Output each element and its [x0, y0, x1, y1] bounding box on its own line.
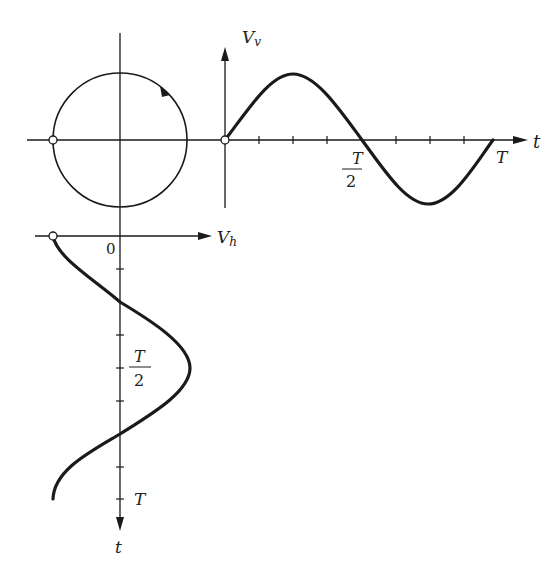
clockwise-arrow-icon	[160, 86, 170, 97]
vh-start-marker	[49, 232, 57, 240]
vv-axis-arrow-icon	[221, 47, 229, 61]
vv-half-period-numerator: T	[352, 149, 364, 168]
vh-origin-label: 0	[106, 240, 116, 258]
vertical-component-plot: Vv t T 2 T	[221, 27, 541, 208]
vh-axis-label: Vh	[217, 227, 237, 249]
t-axis-arrow-icon	[513, 136, 528, 144]
vh-axis-arrow-icon	[198, 232, 212, 240]
vv-period-label: T	[496, 147, 509, 167]
vv-sine-curve	[225, 74, 493, 204]
vv-half-period-denominator: 2	[346, 172, 356, 191]
vv-t-axis-label: t	[533, 131, 541, 152]
reference-circle-group	[27, 33, 515, 526]
vh-half-period-denominator: 2	[134, 371, 144, 390]
t-down-axis-arrow-icon	[116, 517, 124, 531]
vv-axis-label: Vv	[242, 27, 261, 49]
vh-t-axis-label: t	[115, 537, 122, 557]
vh-half-period-numerator: T	[134, 347, 146, 366]
vh-period-label: T	[134, 489, 147, 509]
horizontal-component-plot: Vh 0 T 2 T t	[35, 227, 237, 557]
circle-start-point-marker	[49, 136, 57, 144]
vv-origin-marker	[221, 136, 229, 144]
circular-motion-diagram: Vv t T 2 T Vh 0 T 2 T t	[0, 0, 554, 575]
